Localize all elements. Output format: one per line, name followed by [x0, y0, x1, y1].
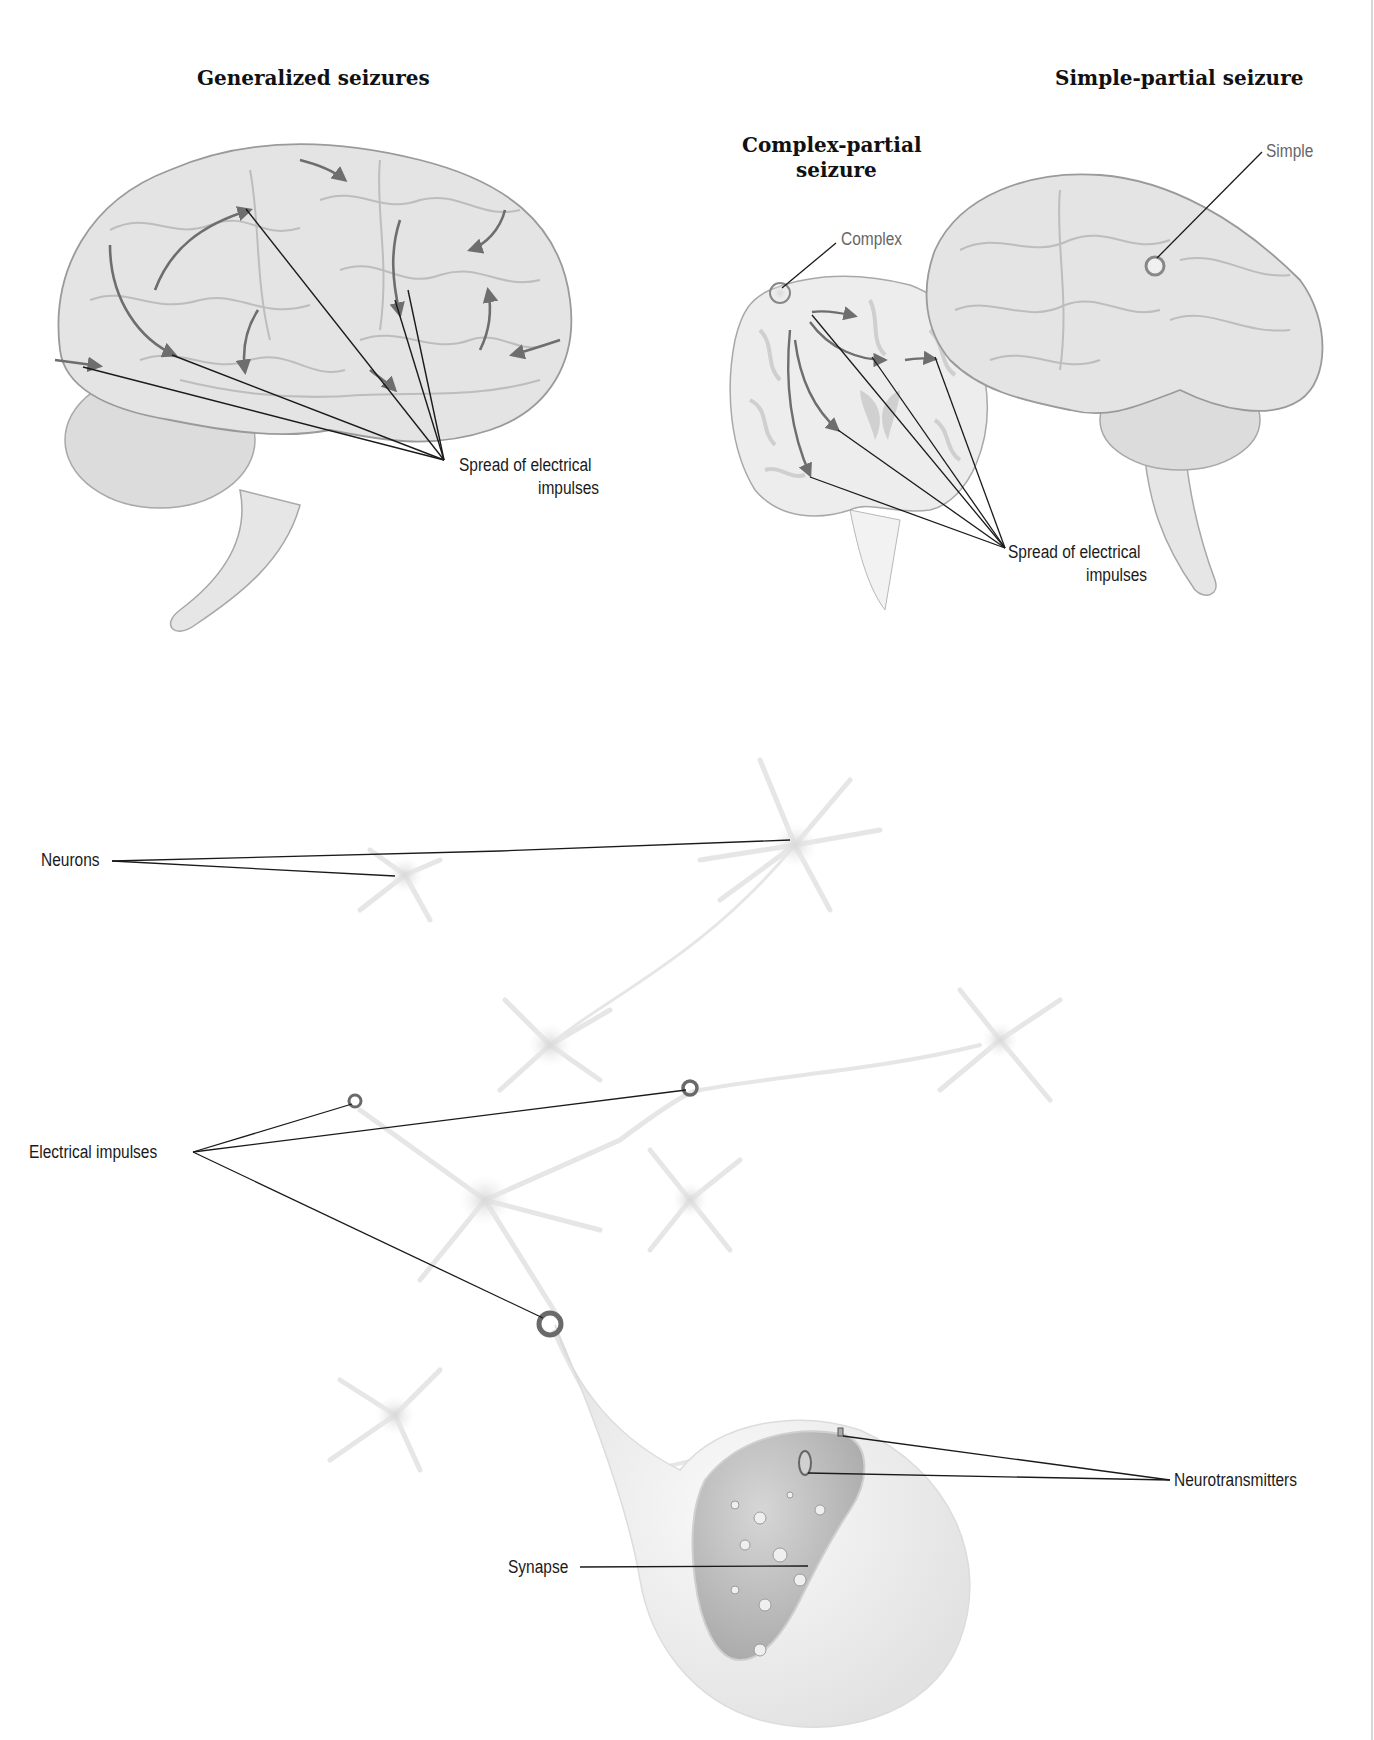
title-generalized-seizures: Generalized seizures	[197, 66, 430, 90]
title-complex-partial-line1: Complex-partial	[742, 133, 921, 157]
generalized-brain	[55, 144, 571, 631]
label-neurotransmitters: Neurotransmitters	[1174, 1470, 1297, 1491]
title-simple-partial-seizure: Simple-partial seizure	[1055, 66, 1303, 90]
label-complex: Complex	[841, 229, 902, 250]
title-complex-partial-line2: seizure	[796, 158, 877, 182]
neuron-network	[330, 760, 1060, 1470]
page-edge-divider	[1371, 0, 1373, 1740]
label-neurons: Neurons	[41, 850, 100, 871]
label-spread-left-line2: impulses	[538, 478, 599, 499]
label-spread-right-line1: Spread of electrical	[1008, 542, 1141, 563]
neuron-somas	[375, 823, 1018, 1435]
synapse-bulb	[555, 1325, 970, 1727]
label-spread-right-line2: impulses	[1086, 565, 1147, 586]
label-synapse: Synapse	[508, 1557, 568, 1578]
simple-partial-brain	[927, 174, 1323, 595]
label-electrical-impulses: Electrical impulses	[29, 1142, 157, 1163]
illustration	[0, 0, 1374, 1740]
label-spread-left-line1: Spread of electrical	[459, 455, 592, 476]
label-simple: Simple	[1266, 141, 1313, 162]
